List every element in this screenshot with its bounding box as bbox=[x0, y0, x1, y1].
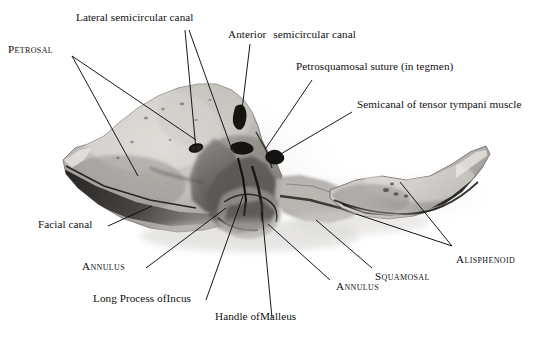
label-malleus: Malleus bbox=[260, 311, 296, 323]
label-anterior: Anterior bbox=[228, 29, 266, 41]
label-long-process-prefix: Long Process of bbox=[93, 293, 166, 305]
label-annulus-right: Annulus bbox=[336, 281, 379, 293]
label-handle-prefix: Handle of bbox=[215, 311, 260, 323]
label-semicircular-canal: semicircular canal bbox=[273, 29, 356, 41]
label-petrosal: Petrosal bbox=[8, 44, 53, 56]
label-facial-canal: Facial canal bbox=[38, 219, 92, 231]
label-semicanal-tensor-tympani: Semicanal of tensor tympani muscle bbox=[357, 99, 522, 111]
label-lateral-semicircular-canal: Lateral semicircular canal bbox=[76, 12, 193, 24]
anatomical-figure bbox=[0, 0, 558, 352]
label-annulus-left: Annulus bbox=[82, 261, 125, 273]
label-incus: Incus bbox=[166, 293, 190, 305]
figure-page: Lateral semicircular canal Anteriorsemic… bbox=[0, 0, 558, 352]
label-petrosquamosal-suture: Petrosquamosal suture (in tegmen) bbox=[296, 61, 453, 73]
label-long-process-of-incus: Long Process of Incus bbox=[93, 293, 191, 305]
label-anterior-semicircular-canal: Anteriorsemicircular canal bbox=[228, 29, 356, 41]
label-alisphenoid: Alisphenoid bbox=[456, 254, 515, 266]
label-squamosal: Squamosal bbox=[375, 271, 430, 283]
label-handle-of-malleus: Handle of Malleus bbox=[215, 311, 296, 323]
